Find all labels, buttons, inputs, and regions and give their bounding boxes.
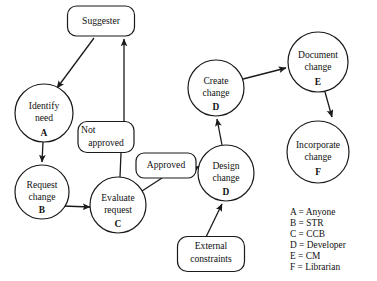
edge-identify-need-to-request-change	[42, 142, 43, 162]
node-design-change[interactable]: Design change D	[198, 145, 254, 201]
node-approved-line-0: Approved	[147, 159, 186, 170]
node-evaluate-request[interactable]: Evaluate request C	[90, 177, 146, 233]
node-external-constraints-line-0: External	[195, 240, 228, 251]
node-evaluate-request-line-1: request	[104, 204, 132, 215]
edge-request-change-to-evaluate-request	[63, 206, 90, 207]
legend-line-1: B = STR	[290, 218, 324, 228]
diagram-canvas: Suggester Identify need A Request change…	[0, 0, 377, 281]
legend-line-3: D = Developer	[290, 240, 347, 250]
edge-design-change-to-create-change	[217, 119, 222, 145]
change-control-flowchart: Suggester Identify need A Request change…	[0, 0, 377, 281]
node-not-approved-line-1: approved	[88, 137, 124, 148]
node-incorporate-change-line-0: Incorporate	[296, 139, 340, 150]
node-document-change-line-1: change	[304, 61, 331, 72]
legend-line-5: F = Librarian	[290, 262, 340, 272]
legend-line-2: C = CCB	[290, 229, 325, 239]
node-external-constraints-line-1: constraints	[190, 253, 232, 264]
node-incorporate-change-line-1: change	[304, 151, 331, 162]
node-create-change-line-0: Create	[203, 75, 228, 86]
node-request-change-line-1: change	[28, 191, 55, 202]
edge-suggester-to-identify-need	[57, 38, 94, 88]
node-external-constraints[interactable]: External constraints	[178, 237, 245, 272]
node-request-change-line-0: Request	[27, 179, 58, 190]
edge-document-change-to-incorporate-change	[325, 92, 332, 117]
legend-line-0: A = Anyone	[290, 207, 335, 217]
edge-evaluate-request-to-not-approved	[120, 153, 121, 177]
node-request-change[interactable]: Request change B	[15, 165, 69, 219]
node-request-change-role: B	[39, 205, 45, 215]
legend-line-4: E = CM	[290, 251, 321, 261]
node-approved[interactable]: Approved	[136, 153, 196, 178]
node-suggester[interactable]: Suggester	[68, 6, 135, 36]
node-document-change-line-0: Document	[298, 49, 338, 60]
node-document-change-role: E	[315, 77, 321, 87]
node-design-change-line-1: change	[212, 172, 239, 183]
node-identify-need-role: A	[41, 128, 48, 138]
node-create-change[interactable]: Create change D	[188, 60, 244, 116]
edge-external-constraints-to-design-change	[206, 204, 222, 237]
node-evaluate-request-role: C	[115, 219, 122, 229]
node-document-change[interactable]: Document change E	[288, 32, 348, 92]
node-evaluate-request-line-0: Evaluate	[101, 192, 135, 203]
node-design-change-line-0: Design	[212, 160, 239, 171]
node-design-change-role: D	[223, 187, 230, 197]
node-not-approved[interactable]: Not approved	[78, 122, 134, 153]
node-incorporate-change-role: F	[315, 167, 321, 177]
node-suggester-line-0: Suggester	[82, 15, 121, 26]
node-not-approved-line-0: Not	[81, 124, 96, 135]
node-create-change-role: D	[213, 102, 220, 112]
node-identify-need-line-1: need	[35, 112, 53, 123]
node-incorporate-change[interactable]: Incorporate change F	[287, 121, 349, 183]
edge-evaluate-request-to-approved	[142, 178, 162, 191]
node-identify-need[interactable]: Identify need A	[15, 84, 73, 142]
legend: A = Anyone B = STR C = CCB D = Developer…	[290, 207, 347, 272]
node-identify-need-line-0: Identify	[29, 100, 60, 111]
edge-create-change-to-document-change	[243, 68, 286, 79]
node-create-change-line-1: change	[202, 87, 229, 98]
